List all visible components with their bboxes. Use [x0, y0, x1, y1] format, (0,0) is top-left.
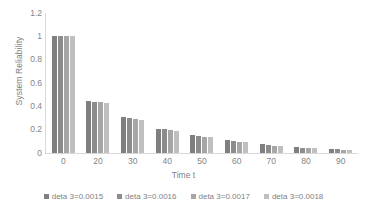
- x-tick-label: 80: [289, 156, 324, 167]
- y-axis-tick-labels: 00.20.40.60.811.2: [20, 0, 42, 160]
- bar: [121, 117, 126, 153]
- bar: [156, 129, 161, 154]
- bar: [162, 129, 167, 153]
- bar: [294, 147, 299, 153]
- bar: [312, 148, 317, 153]
- bar: [300, 148, 305, 153]
- bar: [237, 142, 242, 153]
- y-tick-label: 0.8: [20, 55, 42, 64]
- x-axis-tick-labels: 02030405060708090: [46, 156, 358, 170]
- bar: [335, 149, 340, 153]
- bar: [139, 120, 144, 153]
- x-tick-label: 60: [219, 156, 254, 167]
- bar-group: [150, 13, 185, 153]
- bar: [306, 148, 311, 153]
- plot-area: [46, 13, 358, 153]
- x-axis-title: Time t: [0, 170, 367, 180]
- x-tick-label: 70: [254, 156, 289, 167]
- y-tick-label: 0.6: [20, 79, 42, 88]
- x-axis-line: [46, 153, 358, 154]
- y-tick-label: 0: [20, 149, 42, 158]
- bar-group: [81, 13, 116, 153]
- x-tick-label: 20: [81, 156, 116, 167]
- bar: [52, 36, 57, 153]
- y-tick-label: 1.2: [20, 9, 42, 18]
- y-tick-label: 0.4: [20, 102, 42, 111]
- bar: [92, 102, 97, 153]
- legend-item[interactable]: deta 3=0.0017: [191, 192, 250, 201]
- legend-item[interactable]: deta 3=0.0016: [117, 192, 176, 201]
- bar: [231, 141, 236, 153]
- bar: [243, 142, 248, 153]
- bar: [347, 150, 352, 153]
- system-reliability-bar-chart: System Reliability 00.20.40.60.811.2 020…: [0, 0, 367, 215]
- bar: [168, 130, 173, 153]
- bar: [58, 36, 63, 153]
- x-tick-label: 30: [115, 156, 150, 167]
- bar-group: [219, 13, 254, 153]
- legend-swatch-icon: [117, 194, 122, 199]
- legend-swatch-icon: [44, 194, 49, 199]
- y-tick-label: 1: [20, 32, 42, 41]
- bar: [70, 36, 75, 153]
- bar-group: [254, 13, 289, 153]
- x-tick-label: 50: [185, 156, 220, 167]
- bar: [127, 118, 132, 153]
- legend-item[interactable]: deta 3=0.0018: [264, 192, 323, 201]
- bar: [104, 103, 109, 153]
- bar: [225, 140, 230, 153]
- bar: [202, 137, 207, 153]
- bar: [260, 144, 265, 153]
- bar: [174, 131, 179, 153]
- x-tick-label: 40: [150, 156, 185, 167]
- bar: [133, 119, 138, 153]
- bar: [341, 150, 346, 153]
- bar: [266, 145, 271, 153]
- bar: [272, 146, 277, 153]
- legend-swatch-icon: [191, 194, 196, 199]
- y-tick-label: 0.2: [20, 125, 42, 134]
- bar: [98, 102, 103, 153]
- bar-group: [185, 13, 220, 153]
- legend-label: deta 3=0.0016: [125, 192, 176, 201]
- legend-item[interactable]: deta 3=0.0015: [44, 192, 103, 201]
- x-tick-label: 0: [46, 156, 81, 167]
- bar: [278, 146, 283, 153]
- bar: [86, 101, 91, 154]
- legend-label: deta 3=0.0018: [272, 192, 323, 201]
- bar: [329, 149, 334, 153]
- bar: [64, 36, 69, 153]
- bar: [190, 135, 195, 153]
- x-tick-label: 90: [323, 156, 358, 167]
- legend-label: deta 3=0.0017: [199, 192, 250, 201]
- bar-group: [115, 13, 150, 153]
- bar: [196, 136, 201, 153]
- chart-legend: deta 3=0.0015deta 3=0.0016deta 3=0.0017d…: [0, 192, 367, 201]
- legend-swatch-icon: [264, 194, 269, 199]
- bar-group: [46, 13, 81, 153]
- legend-label: deta 3=0.0015: [52, 192, 103, 201]
- bar: [208, 137, 213, 153]
- bar-group: [323, 13, 358, 153]
- bar-group: [289, 13, 324, 153]
